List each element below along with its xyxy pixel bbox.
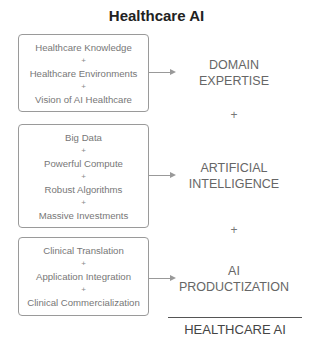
label-line: DOMAIN xyxy=(176,57,292,73)
ai-productization-box: Clinical Translation + Application Integ… xyxy=(18,237,149,316)
box-item: Vision of AI Healthcare xyxy=(35,93,132,106)
plus-sign: + xyxy=(81,80,86,93)
plus-sign: + xyxy=(228,108,240,122)
box-item: Healthcare Environments xyxy=(30,67,138,80)
box-item: Clinical Translation xyxy=(43,244,124,257)
label-line: PRODUCTIZATION xyxy=(176,279,292,295)
arrow-right-icon xyxy=(149,175,174,176)
box-item: Clinical Commercialization xyxy=(27,296,140,309)
box-item: Healthcare Knowledge xyxy=(35,41,132,54)
plus-sign: + xyxy=(81,170,86,183)
domain-expertise-box: Healthcare Knowledge + Healthcare Enviro… xyxy=(18,34,149,112)
plus-sign: + xyxy=(81,283,86,296)
artificial-intelligence-label: ARTIFICIAL INTELLIGENCE xyxy=(176,160,292,192)
plus-sign: + xyxy=(81,196,86,209)
arrow-right-icon xyxy=(149,72,174,73)
domain-expertise-label: DOMAIN EXPERTISE xyxy=(176,57,292,89)
plus-sign: + xyxy=(81,54,86,67)
box-item: Robust Algorithms xyxy=(45,183,123,196)
box-item: Application Integration xyxy=(36,270,131,283)
diagram-title: Healthcare AI xyxy=(0,7,313,24)
box-item: Massive Investments xyxy=(39,209,129,222)
box-item: Powerful Compute xyxy=(44,157,123,170)
ai-productization-label: AI PRODUCTIZATION xyxy=(176,263,292,295)
plus-sign: + xyxy=(81,257,86,270)
result-label: HEALTHCARE AI xyxy=(168,322,302,337)
label-line: ARTIFICIAL xyxy=(176,160,292,176)
box-item: Big Data xyxy=(65,131,102,144)
label-line: AI xyxy=(176,263,292,279)
arrow-right-icon xyxy=(149,278,174,279)
sum-divider xyxy=(168,317,302,318)
label-line: EXPERTISE xyxy=(176,73,292,89)
label-line: INTELLIGENCE xyxy=(176,176,292,192)
plus-sign: + xyxy=(228,223,240,237)
artificial-intelligence-box: Big Data + Powerful Compute + Robust Alg… xyxy=(18,124,149,228)
plus-sign: + xyxy=(81,144,86,157)
